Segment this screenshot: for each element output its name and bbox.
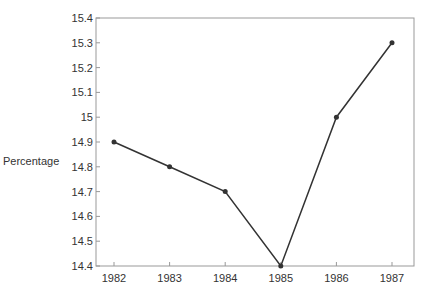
- data-point-marker: [112, 140, 117, 145]
- y-tick-label: 15.3: [72, 37, 93, 49]
- x-axis: 198219831984198519861987: [102, 262, 404, 284]
- y-tick-label: 15: [81, 111, 93, 123]
- y-tick-label: 15.1: [72, 86, 93, 98]
- y-tick-label: 15.4: [72, 12, 93, 24]
- data-point-marker: [167, 164, 172, 169]
- x-tick-label: 1982: [102, 272, 126, 284]
- y-tick-label: 14.5: [72, 235, 93, 247]
- data-series: [112, 40, 395, 268]
- data-point-marker: [278, 264, 283, 269]
- y-tick-label: 15.2: [72, 62, 93, 74]
- y-tick-label: 14.4: [72, 260, 93, 272]
- data-point-marker: [334, 115, 339, 120]
- x-tick-label: 1984: [213, 272, 237, 284]
- x-tick-label: 1983: [157, 272, 181, 284]
- x-tick-label: 1986: [324, 272, 348, 284]
- y-tick-label: 14.9: [72, 136, 93, 148]
- y-axis-label: Percentage: [3, 155, 59, 167]
- series-line: [114, 43, 392, 266]
- plot-border: [96, 18, 414, 266]
- line-chart: 14.414.514.614.714.814.91515.115.215.315…: [0, 0, 430, 292]
- x-tick-label: 1985: [269, 272, 293, 284]
- data-point-marker: [223, 189, 228, 194]
- y-tick-label: 14.8: [72, 161, 93, 173]
- y-tick-label: 14.6: [72, 210, 93, 222]
- data-point-marker: [390, 40, 395, 45]
- plot-frame: [96, 18, 414, 266]
- y-tick-label: 14.7: [72, 186, 93, 198]
- x-tick-label: 1987: [380, 272, 404, 284]
